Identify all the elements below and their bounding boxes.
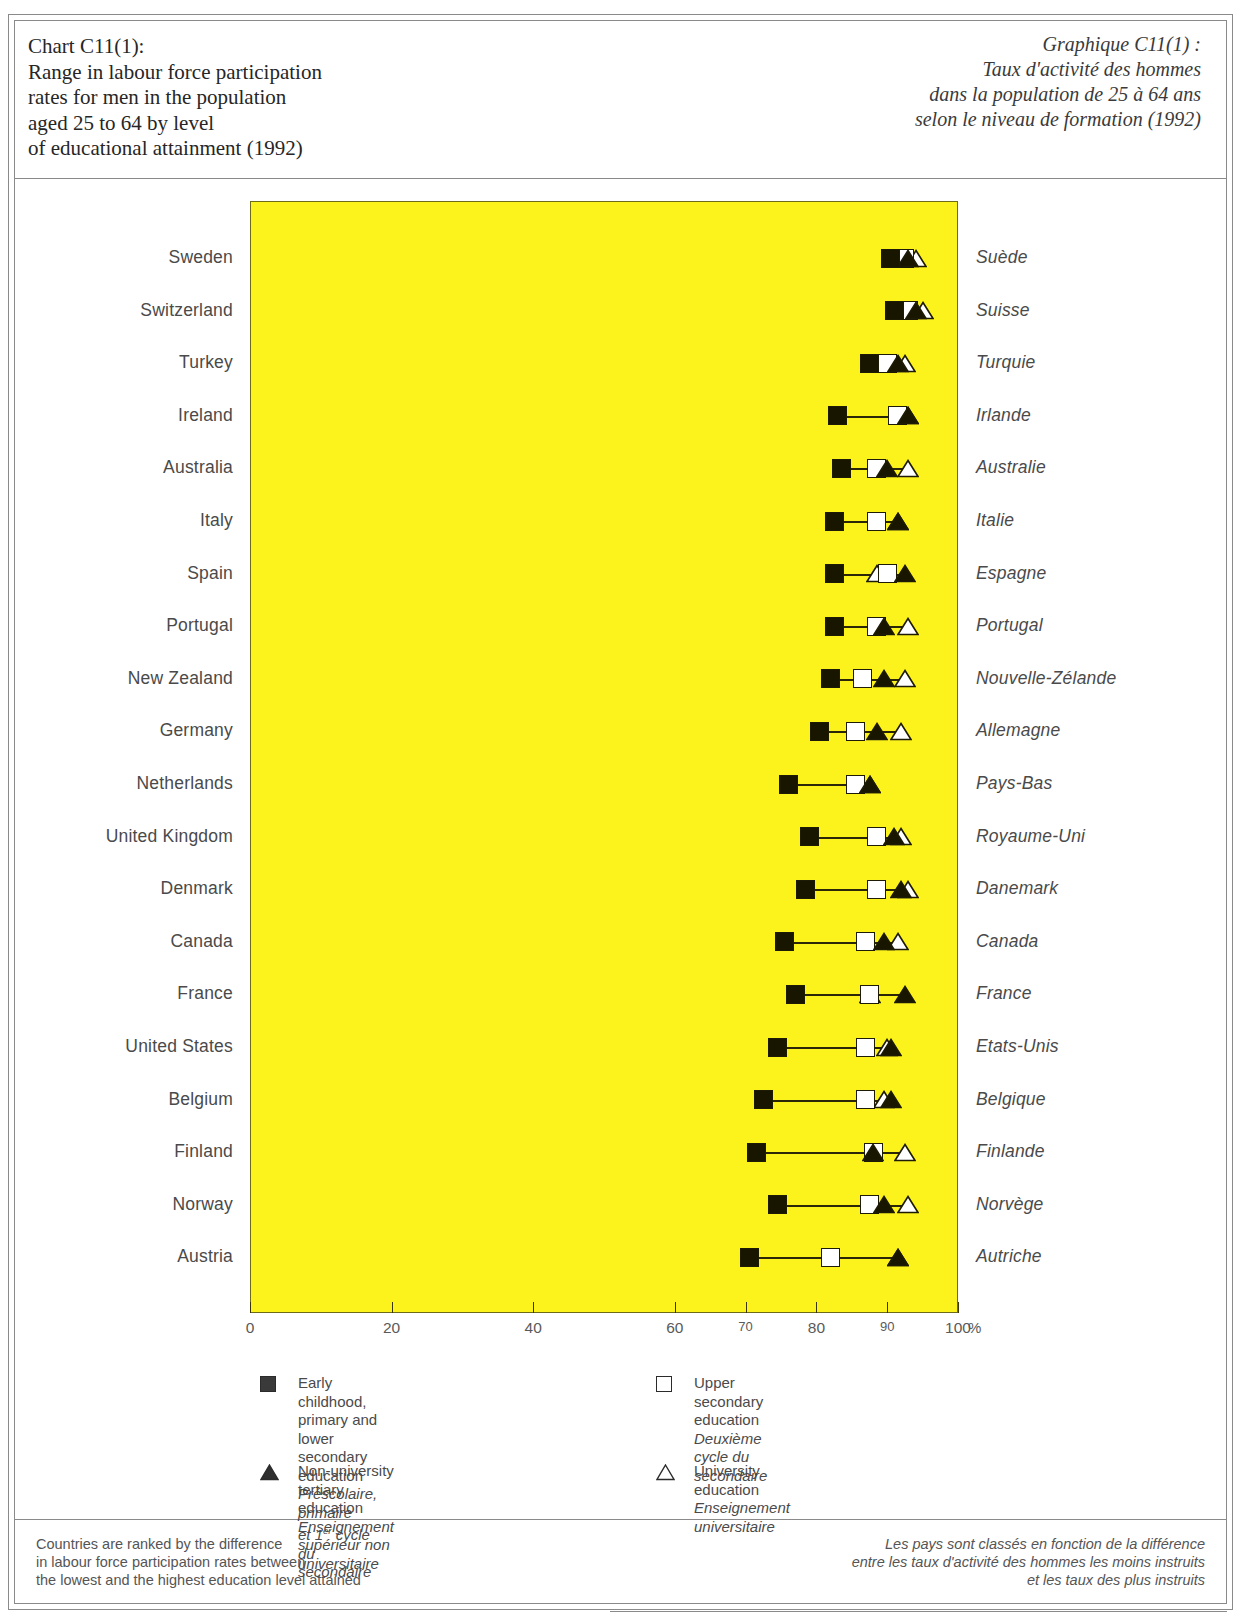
marker-lower-secondary [825,617,844,636]
chart-title-french: Graphique C11(1) :Taux d'activité des ho… [681,32,1201,132]
country-label-fr: Suisse [976,300,1030,321]
axis-tick-label: 60 [666,1319,683,1337]
country-label-en: Turkey [179,352,233,373]
marker-lower-secondary [825,564,844,583]
marker-lower-secondary [860,354,879,373]
axis-tick [816,1302,817,1313]
marker-upper-secondary [860,985,879,1004]
axis-tick-label: 80 [808,1319,825,1337]
country-label-fr: Autriche [976,1246,1042,1267]
marker-upper-secondary [853,669,872,688]
marker-lower-secondary [800,827,819,846]
axis-tick [392,1302,393,1313]
marker-lower-secondary [828,406,847,425]
chart-title-english: Chart C11(1):Range in labour force parti… [28,34,588,162]
country-label-en: Italy [200,510,233,531]
country-label-fr: France [976,983,1032,1004]
marker-lower-secondary [754,1090,773,1109]
x-axis: % 0204060708090100 [250,1313,958,1359]
axis-tick-label: 70 [738,1319,752,1334]
country-label-en: Finland [174,1141,233,1162]
country-label-fr: Canada [976,931,1039,952]
open-triangle-icon [656,1464,675,1485]
marker-upper-secondary [867,880,886,899]
marker-upper-secondary [867,512,886,531]
chart-legend: Early childhood, primary andlower second… [260,1374,1160,1504]
country-label-fr: Nouvelle-Zélande [976,668,1116,689]
country-label-en: Sweden [169,247,233,268]
axis-tick-label: 100 [945,1319,971,1337]
country-label-fr: Irlande [976,405,1031,426]
axis-tick-label: 90 [880,1319,894,1334]
marker-lower-secondary [775,932,794,951]
country-label-en: France [177,983,233,1004]
country-label-fr: Allemagne [976,720,1061,741]
marker-lower-secondary [796,880,815,899]
country-label-en: United Kingdom [106,826,233,847]
open-square-icon [656,1376,672,1392]
country-label-fr: Espagne [976,563,1047,584]
country-label-en: Portugal [166,615,233,636]
country-label-en: Spain [187,563,233,584]
axis-tick [533,1302,534,1313]
country-label-fr: Australie [976,457,1046,478]
footnote-french: Les pays sont classés en fonction de la … [645,1535,1205,1589]
axis-tick [250,1302,251,1313]
footnote-english: Countries are ranked by the differencein… [36,1535,596,1589]
divider-bottom [14,1603,1227,1604]
axis-tick-label: 20 [383,1319,400,1337]
country-label-en: Australia [163,457,233,478]
marker-upper-secondary [856,1038,875,1057]
marker-lower-secondary [885,301,904,320]
axis-tick-label: 0 [246,1319,255,1337]
legend-label: University educationEnseignement univers… [694,1462,790,1536]
marker-lower-secondary [768,1195,787,1214]
country-label-en: United States [125,1036,233,1057]
marker-lower-secondary [747,1143,766,1162]
country-label-en: Belgium [168,1089,233,1110]
axis-tick-label: 40 [525,1319,542,1337]
marker-upper-secondary [821,1248,840,1267]
axis-tick [887,1302,888,1313]
country-label-en: Ireland [178,405,233,426]
filled-square-icon [260,1376,276,1392]
marker-lower-secondary [810,722,829,741]
country-label-fr: Danemark [976,878,1058,899]
country-label-fr: Suède [976,247,1028,268]
country-label-fr: Etats-Unis [976,1036,1059,1057]
axis-tick [746,1302,747,1313]
axis-tick [958,1302,959,1313]
filled-triangle-icon [260,1464,279,1485]
country-label-fr: Turquie [976,352,1035,373]
country-label-en: Norway [172,1194,233,1215]
range-line [795,994,905,996]
marker-lower-secondary [832,459,851,478]
country-label-en: Denmark [161,878,233,899]
country-label-en: Switzerland [140,300,233,321]
marker-lower-secondary [881,249,900,268]
axis-tick [675,1302,676,1313]
country-label-fr: Portugal [976,615,1043,636]
marker-lower-secondary [779,775,798,794]
divider-bottom-right [610,1611,1227,1612]
country-label-fr: Royaume-Uni [976,826,1085,847]
country-label-en: Austria [177,1246,233,1267]
marker-lower-secondary [786,985,805,1004]
country-label-en: Canada [170,931,233,952]
country-label-en: Netherlands [136,773,233,794]
marker-lower-secondary [825,512,844,531]
marker-upper-secondary [856,1090,875,1109]
country-label-en: New Zealand [128,668,233,689]
plot-area [250,201,958,1313]
marker-lower-secondary [768,1038,787,1057]
divider-above-notes [14,1519,1227,1520]
marker-lower-secondary [821,669,840,688]
divider-under-titles [14,178,1227,179]
country-label-en: Germany [160,720,233,741]
country-label-fr: Finlande [976,1141,1045,1162]
country-label-fr: Pays-Bas [976,773,1053,794]
country-label-fr: Norvège [976,1194,1044,1215]
marker-lower-secondary [740,1248,759,1267]
country-label-fr: Belgique [976,1089,1046,1110]
country-label-fr: Italie [976,510,1014,531]
